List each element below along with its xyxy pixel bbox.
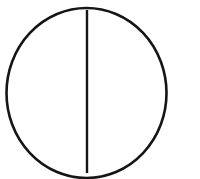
divided-circle-figure (0, 0, 200, 179)
figure-canvas: A circle bisected by a single vertical l… (0, 0, 200, 179)
